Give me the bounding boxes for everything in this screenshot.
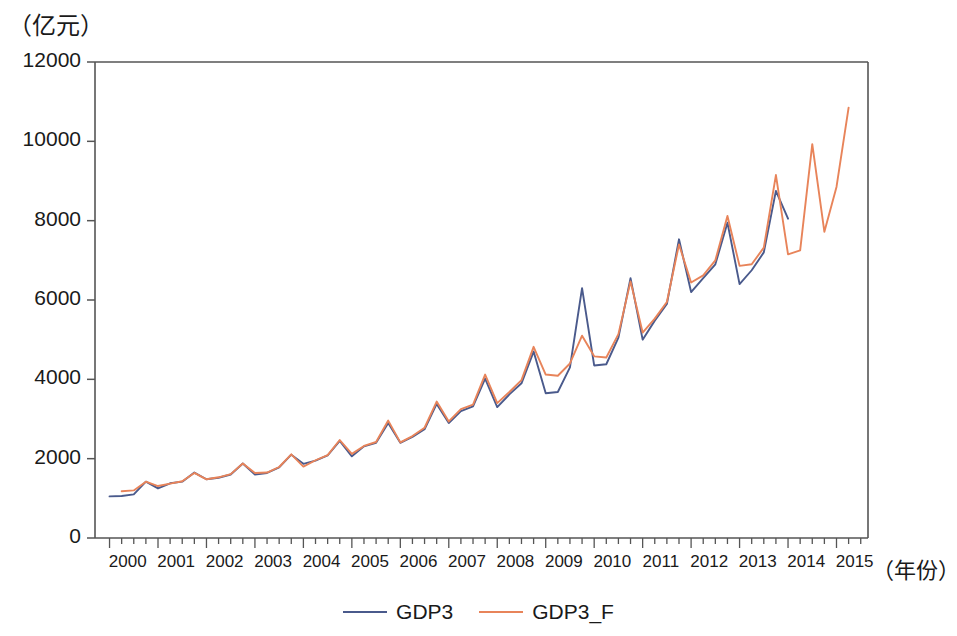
legend-label-gdp3: GDP3: [396, 600, 453, 624]
chart-figure: （亿元） （年份） 020004000600080001000012000 20…: [0, 0, 957, 636]
y-tick-label: 12000: [23, 48, 81, 72]
chart-plot-area: [0, 0, 957, 636]
legend-entry-gdp3-f: GDP3_F: [479, 600, 614, 624]
y-tick-label: 8000: [34, 207, 81, 231]
chart-legend: GDP3 GDP3_F: [0, 600, 957, 624]
y-tick-label: 10000: [23, 127, 81, 151]
y-axis-unit-label: （亿元）: [8, 6, 104, 41]
y-tick-label: 2000: [34, 445, 81, 469]
legend-swatch-gdp3-f: [479, 611, 523, 613]
legend-entry-gdp3: GDP3: [343, 600, 453, 624]
legend-swatch-gdp3: [343, 611, 387, 613]
y-tick-label: 4000: [34, 365, 81, 389]
series-line-gdp3: [110, 191, 788, 496]
legend-label-gdp3-f: GDP3_F: [532, 600, 614, 624]
series-line-gdp3-f: [122, 108, 849, 492]
y-tick-label: 0: [69, 524, 81, 548]
x-axis-unit-label: （年份）: [872, 552, 957, 584]
x-tick-label: 2015: [825, 552, 885, 572]
y-tick-label: 6000: [34, 286, 81, 310]
